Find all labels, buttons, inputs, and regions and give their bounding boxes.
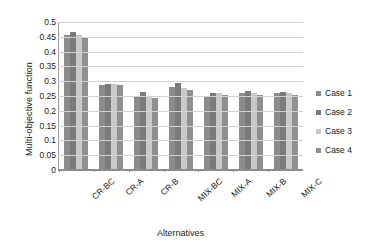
legend-item[interactable]: Case 3	[316, 126, 352, 136]
y-axis-tick-label: 0.35	[39, 62, 56, 71]
legend-item[interactable]: Case 1	[316, 88, 352, 98]
grid-line	[58, 111, 303, 112]
bar[interactable]	[222, 95, 228, 169]
x-axis-tick-label: CR-B	[159, 176, 181, 197]
bar[interactable]	[257, 95, 263, 169]
x-axis-tick-label: MIX-BC	[196, 176, 225, 203]
legend-swatch-icon	[316, 129, 321, 134]
y-axis-tick-label: 0	[51, 166, 56, 175]
bar[interactable]	[292, 95, 298, 169]
grid-line	[58, 155, 303, 156]
y-axis-tick-label: 0.5	[44, 18, 56, 27]
grid-line	[58, 52, 303, 53]
grid-line	[58, 66, 303, 67]
bar[interactable]	[187, 90, 193, 169]
legend-item[interactable]: Case 4	[316, 145, 352, 155]
bar[interactable]	[117, 85, 123, 169]
chart-legend: Case 1Case 2Case 3Case 4	[316, 88, 352, 155]
y-axis-tick-label: 0.45	[39, 33, 56, 42]
y-axis-tick-label: 0.05	[39, 151, 56, 160]
bar-chart: Multi-objective function 0.50.450.40.350…	[0, 0, 384, 251]
legend-swatch-icon	[316, 148, 321, 153]
x-axis-tick-label: MIX-C	[299, 176, 324, 200]
x-axis-title: Alternatives	[58, 228, 303, 238]
bar[interactable]	[152, 98, 158, 169]
legend-label: Case 2	[325, 107, 352, 117]
legend-label: Case 1	[325, 88, 352, 98]
y-axis-tick-label: 0.2	[44, 107, 56, 116]
bar[interactable]	[82, 38, 88, 169]
grid-line	[58, 22, 303, 23]
y-axis-tick-label: 0.4	[44, 48, 56, 57]
x-axis-tick-label: MIX-A	[229, 176, 253, 199]
legend-swatch-icon	[316, 110, 321, 115]
grid-line	[58, 140, 303, 141]
x-axis-tick-label: CR-A	[124, 176, 146, 197]
x-axis-tick-label: CR-BC	[90, 176, 117, 201]
plot-area	[58, 22, 303, 170]
legend-label: Case 3	[325, 126, 352, 136]
y-axis-tick-label: 0.3	[44, 77, 56, 86]
x-axis-tick-label: MIX-B	[264, 176, 288, 199]
legend-item[interactable]: Case 2	[316, 107, 352, 117]
y-axis-tick-label: 0.15	[39, 122, 56, 131]
y-axis-tick-label: 0.1	[44, 136, 56, 145]
y-axis-tick-label: 0.25	[39, 92, 56, 101]
legend-label: Case 4	[325, 145, 352, 155]
legend-swatch-icon	[316, 91, 321, 96]
grid-line	[58, 81, 303, 82]
x-axis-tick-labels: CR-BCCR-ACR-BMIX-BCMIX-AMIX-BMIX-C	[58, 170, 303, 218]
grid-line	[58, 126, 303, 127]
grid-line	[58, 37, 303, 38]
grid-line	[58, 96, 303, 97]
y-axis-tick-labels: 0.50.450.40.350.30.250.20.150.10.050	[22, 0, 56, 251]
